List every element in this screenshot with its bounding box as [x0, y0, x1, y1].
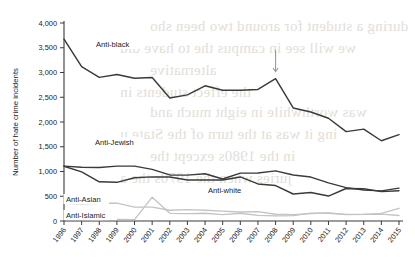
- y-tick-label: 1,000: [39, 167, 58, 176]
- series-inline-labels: Anti-blackAnti-JewishAnti-whiteAnti-Asia…: [64, 39, 252, 220]
- x-tick-label: 2013: [351, 226, 368, 245]
- hate-crime-line-chart: 05001,0001,5002,0002,5003,0003,5004,000 …: [0, 0, 415, 270]
- x-tick-label: 2010: [298, 226, 315, 245]
- y-tick-label: 1,500: [39, 142, 58, 151]
- x-tick-label: 2004: [192, 226, 209, 245]
- y-tick-label: 2,000: [39, 118, 58, 127]
- y-tick-label: 500: [45, 192, 57, 201]
- x-tick-label: 2001: [139, 226, 156, 245]
- series-label-anti-black: Anti-black: [96, 40, 130, 49]
- y-axis-title: Number of hate crime incidents: [11, 68, 20, 176]
- x-tick-label: 2012: [333, 226, 350, 245]
- x-tick-label: 2000: [121, 226, 138, 245]
- y-axis-ticks: [60, 23, 64, 221]
- y-tick-label: 3,000: [39, 68, 58, 77]
- x-tick-label: 1999: [104, 226, 121, 245]
- series-line-anti-black: [64, 39, 399, 141]
- x-tick-label: 2006: [227, 226, 244, 245]
- x-tick-label: 2002: [157, 226, 174, 245]
- series-label-anti-islamic: Anti-Islamic: [66, 211, 105, 220]
- x-tick-label: 2003: [174, 226, 191, 245]
- y-tick-label: 2,500: [39, 93, 58, 102]
- series-label-anti-asian: Anti-Asian: [66, 195, 101, 204]
- x-tick-label: 1998: [86, 226, 103, 245]
- x-tick-label: 1996: [51, 226, 68, 245]
- chart-annotations: [273, 50, 278, 72]
- x-tick-label: 1997: [68, 226, 85, 245]
- x-tick-label: 2009: [280, 226, 297, 245]
- y-tick-label: 0: [53, 217, 57, 226]
- x-tick-label: 2008: [262, 226, 279, 245]
- y-tick-label: 3,500: [39, 43, 58, 52]
- y-axis-tick-labels: 05001,0001,5002,0002,5003,0003,5004,000: [39, 19, 58, 226]
- x-tick-label: 2011: [316, 226, 333, 244]
- y-tick-label: 4,000: [39, 19, 58, 28]
- x-axis-tick-labels: 1996199719981999200020012002200320042005…: [51, 226, 403, 245]
- x-tick-label: 2014: [368, 226, 385, 245]
- x-tick-label: 2007: [245, 226, 262, 245]
- series-label-anti-jewish: Anti-Jewish: [95, 138, 134, 147]
- series-label-anti-white: Anti-white: [208, 186, 241, 195]
- x-axis-ticks: [64, 221, 399, 225]
- x-tick-label: 2005: [210, 226, 227, 245]
- x-tick-label: 2015: [386, 226, 403, 245]
